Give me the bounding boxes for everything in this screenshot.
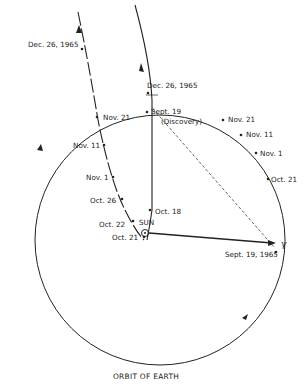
- earth-label-nov21: Nov. 21: [228, 115, 255, 124]
- comet-path-incoming: [135, 5, 152, 240]
- comet-label-oct22: Oct. 22: [99, 220, 125, 229]
- comet-label-dec26: Dec. 26, 1965: [28, 40, 79, 49]
- comet-path-outgoing: [78, 12, 144, 240]
- earth-label-oct21: Oct. 21: [271, 175, 297, 184]
- earth-label-dec26: Dec. 26, 1965: [147, 81, 198, 90]
- sun-label: SUN: [139, 218, 154, 227]
- comet-orbit-diagram: Dec. 26, 1965 Nov. 21 Nov. 11 Nov. 1 Oct…: [0, 0, 308, 391]
- orbit-arrow-icon: [242, 314, 248, 320]
- earth-orbit: [35, 115, 285, 365]
- vernal-equinox-line: [149, 233, 272, 243]
- orbit-arrow-icon: [37, 144, 43, 151]
- comet-label-oct26: Oct. 26: [90, 196, 117, 205]
- comet-label-oct18: Oct. 18: [155, 207, 182, 216]
- comet-label-oct21: Oct. 21: [112, 233, 138, 242]
- earth-label-nov1: Nov. 1: [260, 149, 283, 158]
- comet-label-nov11: Nov. 11: [73, 141, 100, 150]
- comet-label-discovery: (Discovery): [161, 117, 202, 126]
- earth-label-nov11: Nov. 11: [246, 130, 273, 139]
- vernal-equinox-symbol: γ: [281, 239, 287, 249]
- orbit-caption: ORBIT OF EARTH: [113, 372, 179, 381]
- comet-label-nov1: Nov. 1: [86, 173, 109, 182]
- comet-label-sept19: Sept. 19: [151, 107, 182, 116]
- comet-label-nov21: Nov. 21: [103, 113, 130, 122]
- earth-label-sept19: Sept. 19, 1965: [225, 250, 278, 259]
